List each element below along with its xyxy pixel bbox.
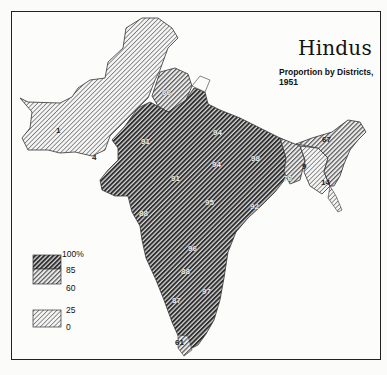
district-label: 98 bbox=[251, 154, 260, 163]
legend-swatch-0-25 bbox=[33, 310, 61, 327]
district-label: 88 bbox=[139, 209, 148, 218]
legend-tick-25: 25 bbox=[66, 305, 75, 315]
district-label: 91 bbox=[171, 174, 180, 183]
district-label: 92 bbox=[250, 202, 259, 211]
district-label: 95 bbox=[205, 198, 214, 207]
district-label: 67 bbox=[322, 135, 331, 144]
district-label: 14 bbox=[321, 178, 330, 187]
legend-tick-100: 100% bbox=[62, 249, 84, 259]
district-label: 66 bbox=[162, 88, 171, 97]
district-label: 87 bbox=[172, 296, 181, 305]
district-label: 94 bbox=[213, 128, 222, 137]
district-label: 96 bbox=[188, 244, 197, 253]
district-label: 61 bbox=[175, 338, 184, 347]
legend-tick-60: 60 bbox=[66, 283, 75, 293]
region-india bbox=[100, 88, 300, 350]
district-label: 9 bbox=[302, 162, 306, 171]
legend-swatch-85-100 bbox=[33, 255, 61, 269]
district-label: 97 bbox=[202, 287, 211, 296]
district-label: 94 bbox=[212, 160, 221, 169]
map-title: Hindus bbox=[298, 36, 372, 60]
map-subtitle: Proportion by Districts, 1951 bbox=[279, 67, 387, 87]
district-label: 76 bbox=[283, 174, 292, 183]
legend-tick-85: 85 bbox=[66, 265, 75, 275]
legend-tick-0: 0 bbox=[66, 322, 71, 332]
district-label: 91 bbox=[141, 137, 150, 146]
district-label: 88 bbox=[181, 267, 190, 276]
district-label: 1 bbox=[56, 126, 60, 135]
legend-swatch-60-85 bbox=[33, 269, 61, 284]
district-label: 4 bbox=[92, 153, 96, 162]
